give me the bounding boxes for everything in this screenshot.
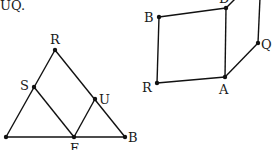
segment-A-Q [225,43,258,77]
point-D [224,6,228,10]
segment-B-R [157,17,159,83]
point-R [53,48,57,52]
label-R2: R [142,80,153,95]
point-B2 [157,15,161,19]
segment-R-A [157,77,225,83]
segment-B-D [159,8,226,17]
segment-D-A [225,8,226,77]
point-U [93,97,97,101]
segment-E-U [74,99,95,137]
segment-R-B [55,50,125,137]
segment-Q-top [258,0,260,43]
label-U: U [99,92,110,107]
point-A [223,75,227,79]
point-S [32,85,36,89]
point-B [123,135,127,139]
header-text: UQ. [0,0,25,13]
label-B2: B [144,10,154,25]
label-Q: Q [261,37,272,52]
diagram-canvas: UQ. R S U B E B D R A Q [0,0,273,150]
triangle-figure: R S U B E [4,32,138,150]
label-D: D [219,0,229,6]
point-R2 [155,81,159,85]
label-S: S [20,78,29,93]
segment-left-R [6,50,55,137]
segment-S-E [34,87,74,137]
point-E [72,135,76,139]
prism-figure: B D R A Q [142,0,272,97]
point-Q [256,41,260,45]
label-A: A [218,82,229,97]
point-left-vertex [4,135,8,139]
label-E: E [70,141,80,150]
label-R: R [50,32,61,47]
label-B: B [128,130,138,145]
